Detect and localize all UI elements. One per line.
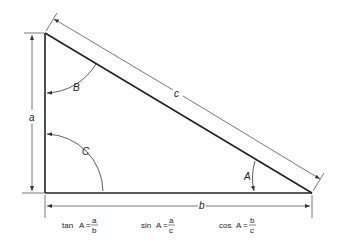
formula-tan-eq: = <box>86 221 91 230</box>
dimension-c: c <box>46 13 324 191</box>
triangle <box>45 33 312 193</box>
formula-tan-numerator: a <box>92 216 97 225</box>
angle-a-label: A <box>243 171 251 182</box>
right-triangle-diagram: a b c B C A tan A = a b sin <box>0 0 338 243</box>
angle-c: C <box>47 134 103 191</box>
formula-tan: tan A = a b <box>62 216 98 235</box>
formula-sin-numerator: a <box>169 216 174 225</box>
angle-b: B <box>47 64 96 93</box>
formula-sin-eq: = <box>163 221 168 230</box>
side-b-label: b <box>199 200 205 211</box>
dimension-a: a <box>22 33 44 193</box>
formula-cos-denominator: c <box>250 226 254 235</box>
angle-c-label: C <box>82 146 90 157</box>
formula-tan-angle: A <box>79 221 85 230</box>
angle-a: A <box>243 161 255 191</box>
angle-b-label: B <box>73 82 80 93</box>
formula-sin: sin A = a c <box>141 216 175 235</box>
dimension-b: b <box>45 195 312 218</box>
side-c-line <box>45 33 312 193</box>
formula-cos: cos A = b c <box>219 216 256 235</box>
formula-cos-eq: = <box>243 221 248 230</box>
side-c-label: c <box>174 88 179 99</box>
formula-tan-denominator: b <box>92 226 97 235</box>
formula-sin-denominator: c <box>169 226 173 235</box>
formula-sin-angle: A <box>156 221 162 230</box>
formula-cos-angle: A <box>236 221 242 230</box>
formula-tan-func: tan <box>62 221 73 230</box>
formula-cos-numerator: b <box>250 216 255 225</box>
formula-cos-func: cos <box>219 221 231 230</box>
side-a-label: a <box>29 112 35 123</box>
formula-sin-func: sin <box>141 221 151 230</box>
